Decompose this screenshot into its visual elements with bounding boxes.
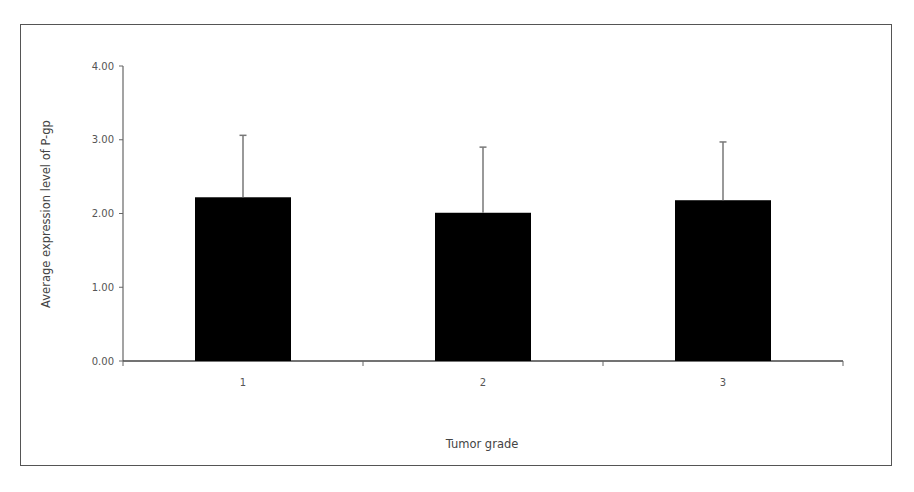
x-tick-label: 2 <box>480 377 486 388</box>
x-tick-label: 3 <box>720 377 726 388</box>
y-tick-label: 4.00 <box>92 61 114 72</box>
bar <box>195 197 291 361</box>
y-axis-title: Average expression level of P-gp <box>39 120 53 308</box>
bar <box>675 200 771 361</box>
y-tick-label: 3.00 <box>92 134 114 145</box>
x-tick-label: 1 <box>240 377 246 388</box>
bars <box>195 135 771 361</box>
y-tick-label: 1.00 <box>92 282 114 293</box>
x-axis-title: Tumor grade <box>445 437 519 451</box>
bar-chart: 0.001.002.003.004.00 123 Average express… <box>0 0 914 492</box>
y-tick-label: 2.00 <box>92 208 114 219</box>
y-tick-label: 0.00 <box>92 356 114 367</box>
bar <box>435 213 531 361</box>
x-axis: 123 <box>123 361 843 388</box>
y-axis: 0.001.002.003.004.00 <box>92 61 123 367</box>
